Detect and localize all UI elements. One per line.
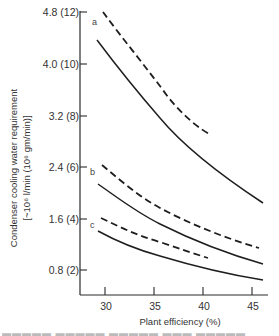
curve-label-a: a [92,17,97,27]
y-tick-label: 0.8 (2) [49,264,79,276]
y-tick-label: 3.2 (8) [49,110,79,122]
y-tick-label: 4.0 (10) [43,58,79,70]
x-axis-title: Plant efficiency (%) [139,316,220,327]
y-axis-title: Condenser cooling water requirement [~10… [8,88,32,247]
x-tick-label: 45 [247,300,259,312]
curve-b-solid [98,184,263,264]
y-tick-label: 4.8 (12) [43,6,79,18]
x-ticks [105,287,252,295]
y-tick-labels: 4.8 (12) 4.0 (10) 3.2 (8) 2.4 (6) 1.6 (4… [43,6,79,276]
curve-label-b: b [90,167,95,177]
y-tick-label: 1.6 (4) [49,213,79,225]
curve-a-solid [97,40,263,203]
x-tick-label: 40 [198,300,210,312]
truncated-caption: ▬▬▬▬▬ ▬▬▬▬▬ ▬▬▬▬▬ ▬▬▬ ▬▬▬▬▬ [2,328,277,336]
y-tick-label: 2.4 (6) [49,161,79,173]
y-axis-title-line1: Condenser cooling water requirement [8,88,19,247]
y-ticks [80,12,87,270]
x-tick-labels: 30 35 40 45 [100,300,259,312]
curve-a-dashed [103,12,211,135]
line-chart: Condenser cooling water requirement [~10… [0,0,279,336]
x-tick-label: 30 [100,300,112,312]
curve-b-dashed [102,165,259,248]
x-tick-label: 35 [149,300,161,312]
y-axis-title-line2: [~10⁶ l/min (10⁶ gm/min)] [21,115,32,220]
curve-label-c: c [90,220,95,230]
curve-c-solid [98,231,263,280]
